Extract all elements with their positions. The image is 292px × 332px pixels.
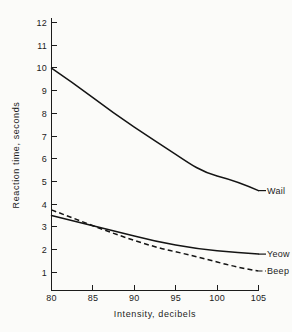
y-tick-label-12: 12 bbox=[37, 18, 47, 28]
y-tick-label-11: 11 bbox=[37, 41, 47, 51]
x-axis-title: Intensity, decibels bbox=[114, 309, 196, 319]
y-tick-label-5: 5 bbox=[42, 177, 47, 187]
y-tick-label-1: 1 bbox=[42, 268, 47, 278]
x-axis-ticks bbox=[52, 285, 259, 291]
y-tick-label-8: 8 bbox=[42, 109, 47, 119]
x-tick-label-90: 90 bbox=[129, 293, 139, 303]
y-tick-label-2: 2 bbox=[42, 245, 47, 255]
series-curve-wail bbox=[52, 68, 259, 191]
y-tick-label-4: 4 bbox=[42, 200, 47, 210]
y-tick-label-6: 6 bbox=[42, 154, 47, 164]
chart-page: 12 11 10 9 8 7 6 5 4 3 2 1 80 85 bbox=[0, 0, 292, 332]
reaction-time-figure: 12 11 10 9 8 7 6 5 4 3 2 1 80 85 bbox=[0, 0, 292, 332]
y-axis-ticks bbox=[52, 23, 58, 273]
x-tick-label-85: 85 bbox=[88, 293, 98, 303]
x-tick-label-95: 95 bbox=[170, 293, 180, 303]
x-tick-label-100: 100 bbox=[209, 293, 225, 303]
y-axis-title: Reaction time, seconds bbox=[11, 102, 21, 209]
y-tick-label-10: 10 bbox=[37, 63, 47, 73]
series-label-beep: Beep bbox=[267, 266, 289, 276]
y-tick-label-3: 3 bbox=[42, 222, 47, 232]
x-tick-label-80: 80 bbox=[46, 293, 56, 303]
y-tick-label-9: 9 bbox=[42, 86, 47, 96]
y-tick-label-7: 7 bbox=[42, 132, 47, 142]
line-chart-canvas: 12 11 10 9 8 7 6 5 4 3 2 1 80 85 bbox=[0, 0, 292, 332]
x-tick-label-105: 105 bbox=[251, 293, 267, 303]
series-label-wail: Wail bbox=[267, 186, 285, 196]
series-label-yeow: Yeow bbox=[267, 249, 290, 259]
